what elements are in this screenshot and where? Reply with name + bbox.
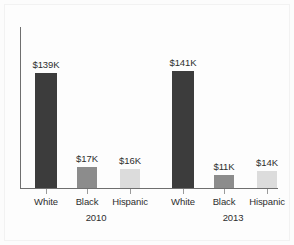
x-label-2013-white: White <box>171 196 195 207</box>
bar-value-2013-white: $141K <box>170 57 197 68</box>
x-label-2010-white: White <box>34 196 58 207</box>
x-label-2013-hispanic: Hispanic <box>249 196 285 207</box>
bar-2013-white[interactable] <box>172 71 194 188</box>
bar-2013-hispanic[interactable] <box>257 171 277 188</box>
bar-slot-2013-white: $141K <box>172 27 194 188</box>
x-axis-line <box>20 188 278 189</box>
bar-2010-black[interactable] <box>77 167 97 188</box>
x-tick-2010-black <box>87 189 88 194</box>
bar-2013-black[interactable] <box>214 175 234 188</box>
bar-value-2010-white: $139K <box>33 59 60 70</box>
x-label-2010-black: Black <box>76 196 99 207</box>
x-label-2010-hispanic: Hispanic <box>112 196 148 207</box>
bar-value-2013-hispanic: $14K <box>256 157 278 168</box>
bar-slot-2010-white: $139K <box>35 27 57 188</box>
bars-container: $139K $17K $16K $141K $11K <box>20 27 278 188</box>
bar-value-2013-black: $11K <box>213 161 234 172</box>
plot-area: $139K $17K $16K $141K $11K <box>0 0 294 245</box>
bar-slot-2013-hispanic: $14K <box>257 27 277 188</box>
x-tick-2013-white <box>183 189 184 194</box>
x-label-2013-black: Black <box>213 196 236 207</box>
x-tick-2010-white <box>46 189 47 194</box>
group-label-2013: 2013 <box>223 212 244 223</box>
x-tick-2013-hispanic <box>267 189 268 194</box>
bar-slot-2010-hispanic: $16K <box>120 27 140 188</box>
x-tick-2010-hispanic <box>130 189 131 194</box>
x-tick-2013-black <box>224 189 225 194</box>
bar-2010-hispanic[interactable] <box>120 169 140 188</box>
bar-slot-2010-black: $17K <box>77 27 97 188</box>
bar-value-2010-hispanic: $16K <box>119 155 141 166</box>
bar-2010-white[interactable] <box>35 73 57 188</box>
group-label-2010: 2010 <box>86 212 107 223</box>
bar-value-2010-black: $17K <box>76 153 98 164</box>
bar-slot-2013-black: $11K <box>214 27 234 188</box>
chart-figure: $139K $17K $16K $141K $11K <box>0 0 294 245</box>
